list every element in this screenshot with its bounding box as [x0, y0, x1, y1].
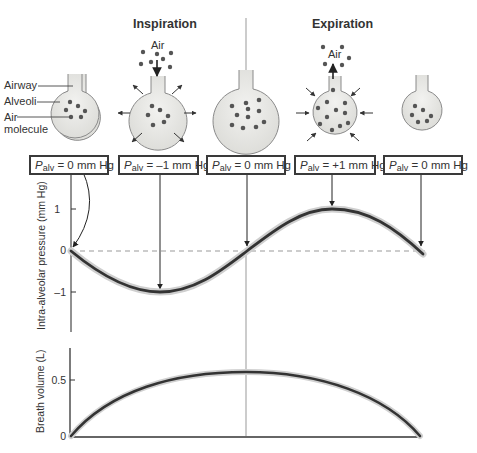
pressure-box-3: Palv = 0 mm Hg	[206, 155, 286, 175]
vtick-0-5: 0.5	[51, 374, 66, 386]
p-subscript: alv	[308, 163, 320, 173]
ytick-0: 0	[60, 244, 66, 256]
pressure-box-2: Palv = –1 mm Hg	[118, 155, 199, 175]
ytick-neg1: –1	[54, 286, 66, 298]
p-value: = 0 mm Hg	[411, 159, 468, 171]
label-air-molecule: Air	[4, 111, 18, 123]
label-air-molecule-2: molecule	[4, 123, 48, 135]
p-value: = –1 mm Hg	[146, 159, 209, 171]
p-value: = +1 mm Hg	[322, 159, 385, 171]
p-subscript: alv	[220, 163, 232, 173]
p-symbol: P	[212, 159, 220, 171]
p-value: = 0 mm Hg	[57, 159, 114, 171]
p-symbol: P	[300, 159, 308, 171]
p-subscript: alv	[43, 163, 55, 173]
p-symbol: P	[389, 159, 397, 171]
pressure-box-1: Palv = 0 mm Hg	[29, 155, 109, 175]
label-alveoli: Alveoli	[4, 95, 36, 107]
pressure-box-4: Palv = +1 mm Hg	[294, 155, 376, 175]
p-value: = 0 mm Hg	[234, 159, 291, 171]
pressure-box-5: Palv = 0 mm Hg	[383, 155, 463, 175]
p-subscript: alv	[132, 163, 144, 173]
p-subscript: alv	[397, 163, 409, 173]
label-air-in: Air	[151, 39, 165, 51]
vtick-0: 0	[60, 430, 66, 442]
label-air-out: Air	[328, 48, 342, 60]
volume-axis-title: Breath volume (L)	[34, 350, 46, 433]
volume-chart: 0.5 0 Breath volume (L)	[34, 348, 422, 442]
heading-expiration: Expiration	[312, 17, 373, 31]
alveolus-expiration: Air	[296, 45, 373, 141]
label-airway: Airway	[4, 79, 38, 91]
pressure-axis-title: Intra-alveolar pressure (mm Hg)	[35, 181, 47, 330]
alveolus-end-inspiration	[213, 70, 279, 154]
heading-inspiration: Inspiration	[133, 17, 197, 31]
p-symbol: P	[124, 159, 132, 171]
respiration-diagram: Inspiration Expiration Airway Alveoli Ai…	[0, 0, 477, 453]
p-symbol: P	[35, 159, 43, 171]
alveolus-rest-2	[402, 75, 442, 130]
alveolus-rest-1	[51, 74, 100, 140]
ytick-1: 1	[54, 203, 60, 215]
alveolus-inspiration: Air	[118, 39, 196, 150]
